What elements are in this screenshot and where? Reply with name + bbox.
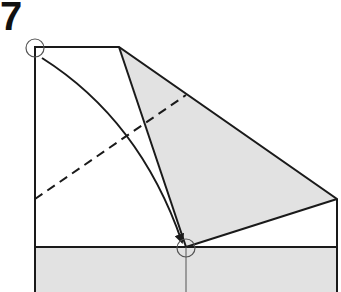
origami-diagram [0, 0, 341, 292]
